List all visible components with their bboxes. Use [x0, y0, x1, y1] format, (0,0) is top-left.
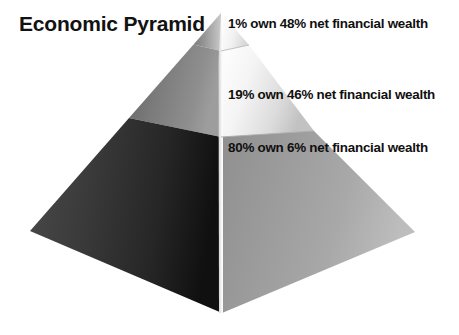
economic-pyramid-figure: Economic Pyramid 1% own 48% net financia… [0, 0, 459, 335]
left-face-tier-3 [30, 118, 222, 313]
tier-2-label: 19% own 46% net financial wealth [228, 88, 435, 103]
tier-3-label: 80% own 6% net financial wealth [228, 141, 428, 156]
tier-1-label: 1% own 48% net financial wealth [228, 17, 428, 32]
pyramid-left-face [30, 13, 222, 313]
pyramid-center-ridge-highlight [219, 13, 224, 313]
page-title: Economic Pyramid [19, 12, 205, 35]
pyramid-graphic [0, 0, 459, 335]
pyramid-right-face [221, 13, 415, 313]
right-face-tier-3 [221, 131, 415, 313]
